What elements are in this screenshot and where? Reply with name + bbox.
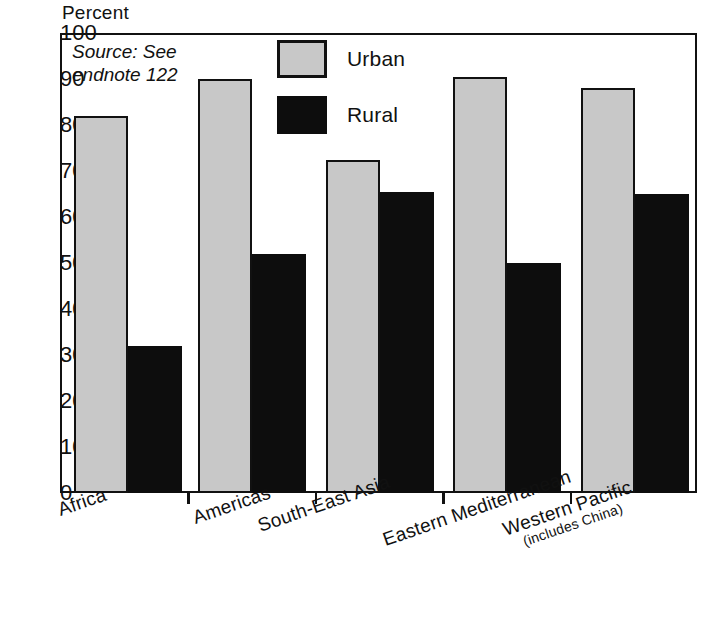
bar-rural	[635, 194, 689, 493]
legend-item-rural: Rural	[277, 96, 405, 134]
source-note: Source: See endnote 122	[72, 40, 178, 86]
bar-chart: Percent 1009080706050403020100 AfricaAme…	[0, 0, 721, 617]
bar-rural	[252, 254, 306, 493]
bar-urban	[74, 116, 128, 493]
legend-swatch-rural-icon	[277, 96, 327, 134]
legend-label-rural: Rural	[347, 103, 398, 127]
bar-urban	[326, 160, 380, 494]
bar-urban	[453, 77, 507, 493]
bar-urban	[198, 79, 252, 493]
legend-item-urban: Urban	[277, 40, 405, 78]
bar-rural	[380, 192, 434, 493]
bar-rural	[507, 263, 561, 493]
x-axis-tick-mark	[187, 493, 190, 504]
x-axis-tick-mark	[442, 493, 445, 504]
bar-urban	[581, 88, 635, 493]
legend-swatch-urban-icon	[277, 40, 327, 78]
legend-label-urban: Urban	[347, 47, 405, 71]
bar-rural	[128, 346, 182, 493]
chart-legend: Urban Rural	[277, 40, 405, 152]
